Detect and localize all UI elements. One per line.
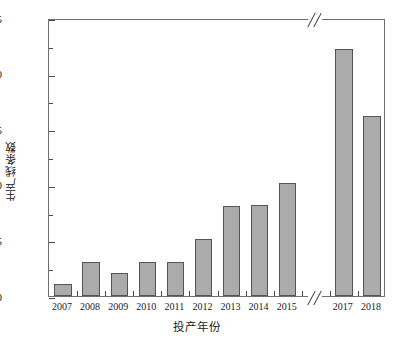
y-axis-tick-label: 5 [0, 236, 2, 247]
y-axis-tick-label: 25 [0, 14, 2, 25]
bar [251, 205, 268, 296]
x-axis-tick-label: 2012 [188, 302, 216, 312]
bar [279, 183, 296, 296]
x-axis-title: 投产年份 [0, 318, 394, 334]
x-axis-tick-label: 2011 [160, 302, 188, 312]
bar [335, 49, 352, 296]
x-axis-tick-label: 2007 [48, 302, 76, 312]
x-axis-tick-label: 2008 [76, 302, 104, 312]
y-axis-tick-label: 0 [0, 292, 2, 303]
x-axis-tick-label: 2017 [329, 302, 357, 312]
x-axis-tick-label: 2010 [132, 302, 160, 312]
bar [167, 262, 184, 296]
y-axis-tick-label: 10 [0, 180, 2, 191]
bar [223, 206, 240, 296]
x-axis-tick-label: 2013 [217, 302, 245, 312]
y-axis-tick-major [49, 298, 55, 299]
y-axis-title-text: 生产线条数 [3, 141, 19, 201]
bar [195, 239, 212, 296]
x-axis-tick-label: 2018 [357, 302, 385, 312]
bars-layer [49, 20, 384, 296]
bar [111, 273, 128, 296]
x-axis-tick-label: 2015 [273, 302, 301, 312]
x-axis-tick-label: 2014 [245, 302, 273, 312]
y-axis-tick-label: 20 [0, 69, 2, 80]
bar-chart-figure: 生产线条数 0510152025 20072008200920102011201… [0, 0, 394, 342]
x-axis-tick-label: 2009 [104, 302, 132, 312]
bar [54, 284, 71, 296]
y-axis-tick-label: 15 [0, 125, 2, 136]
bar [82, 262, 99, 296]
bar [363, 116, 380, 296]
bar [139, 262, 156, 296]
plot-area [48, 19, 385, 297]
y-axis-title: 生产线条数 [3, 141, 19, 201]
